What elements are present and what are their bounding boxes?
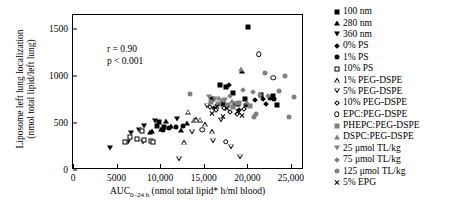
data-point (237, 155, 243, 160)
legend-item[interactable]: 0% PS (330, 40, 459, 51)
data-point (246, 25, 251, 30)
x-axis-tick-mark (247, 164, 248, 168)
legend-item[interactable]: 75 μmol TL/kg (330, 154, 459, 165)
data-point (151, 139, 156, 144)
data-point (239, 113, 245, 119)
legend-item-label: 75 μmol TL/kg (343, 154, 401, 165)
data-point (176, 156, 182, 161)
data-point (271, 75, 277, 81)
data-point (187, 91, 192, 96)
data-point (272, 96, 277, 101)
data-point (220, 113, 226, 119)
legend-item[interactable]: 10% PEG-DSPE (330, 97, 459, 108)
legend-item[interactable]: EPC:PEG-DSPE (330, 109, 459, 120)
y-axis-label-line2: (nmol total lipid/left lung) (26, 1, 37, 177)
data-point (180, 123, 185, 128)
legend-item[interactable]: 360 nm (330, 29, 459, 40)
legend-item-label: 1% PS (343, 52, 369, 63)
legend-marker-icon (330, 75, 343, 86)
y-axis-tick-mark (73, 123, 77, 124)
legend-item[interactable]: 5% EPG (330, 177, 459, 188)
legend-item[interactable]: PHEPC:PEG-DSPE (330, 120, 459, 131)
legend-item-label: 280 nm (343, 18, 372, 29)
legend-marker-icon (330, 120, 343, 131)
data-point (193, 117, 199, 122)
data-point (223, 139, 229, 145)
legend-item-label: EPC:PEG-DSPE (343, 109, 407, 120)
data-point (174, 117, 180, 122)
correlation-annotation: r = 0.90p < 0.001 (107, 43, 143, 67)
data-point (139, 128, 144, 133)
x-axis-label: AUC0–24 h (nmol total lipid* h/ml blood) (72, 186, 303, 199)
data-point (263, 101, 269, 107)
legend-item[interactable]: 25 μmol TL/kg (330, 143, 459, 154)
legend-marker-icon (330, 40, 343, 51)
x-axis-tick-label: 10,000 (147, 168, 173, 183)
x-axis-tick-label: 0 (71, 168, 76, 183)
data-point (240, 87, 246, 93)
legend-item[interactable]: 100 nm (330, 6, 459, 17)
plot-area: 0500100015000500010,00015,00020,00025,00… (72, 14, 303, 169)
data-point (282, 74, 287, 79)
legend-item-label: 1% PEG-DSPE (343, 75, 402, 86)
data-point (238, 66, 244, 71)
legend-marker-icon (330, 154, 343, 165)
legend-item-label: DSPC:PEG-DSPE (343, 131, 414, 142)
data-point (189, 130, 195, 135)
legend-marker-icon (330, 131, 343, 142)
data-point (274, 103, 279, 108)
data-point (152, 119, 158, 124)
x-axis-tick-mark (117, 164, 118, 168)
annotation-line: p < 0.001 (107, 55, 143, 67)
legend-item[interactable]: 125 μmol TL/kg (330, 165, 459, 176)
data-point (212, 96, 218, 101)
legend: 100 nm280 nm360 nm0% PS1% PS10% PS1% PEG… (330, 6, 459, 188)
y-axis-tick-mark (73, 76, 77, 77)
legend-item[interactable]: 1% PEG-DSPE (330, 74, 459, 85)
legend-item-label: 10% PEG-DSPE (343, 97, 407, 108)
legend-item-label: 10% PS (343, 63, 373, 74)
y-axis-label-line1: Liposome left lung localization (15, 1, 26, 177)
annotation-line: r = 0.90 (107, 43, 143, 55)
data-point (262, 71, 267, 76)
legend-marker-icon (330, 86, 343, 97)
data-point (291, 94, 296, 99)
data-point (206, 94, 212, 99)
legend-item[interactable]: 1% PS (330, 52, 459, 63)
legend-item[interactable]: 280 nm (330, 17, 459, 28)
legend-item[interactable]: 10% PS (330, 63, 459, 74)
legend-item-label: 125 μmol TL/kg (343, 166, 405, 177)
legend-item-label: 25 μmol TL/kg (343, 143, 401, 154)
y-axis-tick-mark (73, 29, 77, 30)
data-point (202, 122, 208, 127)
data-point (185, 109, 191, 114)
data-point (287, 115, 292, 120)
data-point (224, 106, 230, 112)
y-axis-tick-label: 1000 (49, 71, 73, 81)
legend-marker-icon (330, 18, 343, 29)
data-point (252, 115, 257, 120)
data-point (222, 98, 228, 103)
legend-item-label: 0% PS (343, 40, 369, 51)
data-point (166, 125, 171, 130)
x-axis-tick-label: 15,000 (191, 168, 217, 183)
data-point (141, 137, 146, 142)
data-point (134, 137, 139, 142)
data-point (209, 129, 215, 134)
x-axis-tick-mark (204, 164, 205, 168)
x-axis-tick-mark (73, 164, 74, 168)
scatter-plot-figure: Liposome left lung localization (nmol to… (0, 0, 459, 207)
y-axis-tick-label: 500 (54, 118, 73, 128)
x-axis-tick-label: 20,000 (234, 168, 260, 183)
data-point (244, 100, 250, 105)
legend-marker-icon (330, 97, 343, 108)
legend-item-label: 100 nm (343, 6, 372, 17)
data-point (173, 124, 178, 129)
legend-marker-icon (330, 166, 343, 177)
y-axis-tick-label: 1500 (49, 24, 73, 34)
data-point (127, 135, 132, 140)
x-axis-tick-mark (160, 164, 161, 168)
legend-marker-icon (330, 52, 343, 63)
legend-item[interactable]: 5% PEG-DSPE (330, 86, 459, 97)
legend-item[interactable]: DSPC:PEG-DSPE (330, 131, 459, 142)
